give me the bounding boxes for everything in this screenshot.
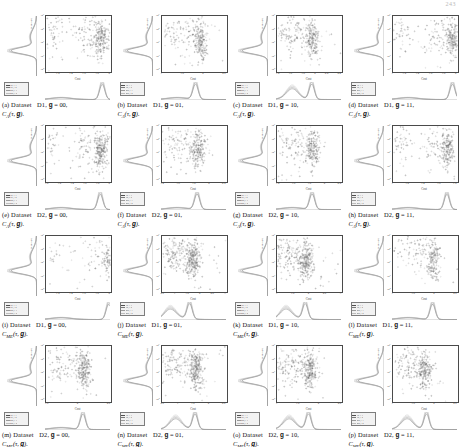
x-axis-label: Cost <box>45 407 110 411</box>
scatter-plot-axes[interactable] <box>276 15 343 73</box>
x-tick-label: 2 <box>202 72 203 75</box>
legend-color-swatch <box>237 87 241 88</box>
legend-entry-label: MR_i=2 <box>357 312 364 315</box>
x-tick-label: 1 <box>45 292 46 295</box>
scatter-plot-axes[interactable] <box>392 15 459 73</box>
x-axis-label: Cost <box>276 297 341 301</box>
x-tick-label: 1.5 <box>191 402 194 405</box>
panel-caption: (k)Dataset D1, g = 10,CME(τ, g). <box>233 320 345 341</box>
plot-legend[interactable]: TR_i=1TR_i=2MR_i=1MR_i=2 <box>4 412 29 426</box>
marginal-density-x <box>276 82 341 100</box>
panel-g-value: 01 <box>174 321 180 328</box>
panel-dataset: Dataset D1, <box>127 101 163 108</box>
scatter-plot-axes[interactable] <box>392 345 459 403</box>
panel-letter: (o) <box>233 431 240 438</box>
legend-color-swatch <box>237 93 241 94</box>
scatter-plot-axes[interactable] <box>276 345 343 403</box>
y-tick-label: 10² <box>387 68 391 71</box>
marginal-density-x <box>45 412 110 430</box>
scatter-plot-axes[interactable] <box>276 235 343 293</box>
panel-g-symbol: g <box>396 211 400 218</box>
plot-legend[interactable]: TR_i=1TR_i=2MR_i=1MR_i=2 <box>351 302 376 316</box>
legend-color-swatch <box>121 305 125 306</box>
plot-legend[interactable]: TR_i=1TR_i=2MR_i=1MR_i=2 <box>4 302 29 316</box>
plot-legend[interactable]: TR_i=1TR_i=2MR_i=1MR_i=2 <box>120 82 145 96</box>
marginal-density-x <box>161 302 226 320</box>
legend-color-swatch <box>352 310 356 311</box>
plot-legend[interactable]: TR_i=1TR_i=2MR_i=1MR_i=2 <box>235 192 260 206</box>
figure-panel-a: 10⁶10⁵10⁴10³10²Suite size11.21.41.61.82C… <box>0 12 116 122</box>
scatter-plot-axes[interactable] <box>45 125 112 183</box>
legend-color-swatch <box>237 417 241 418</box>
marginal-density-x <box>276 192 341 210</box>
legend-color-swatch <box>352 90 356 91</box>
scatter-plot-axes[interactable] <box>161 125 228 183</box>
y-tick-label: 10⁵ <box>156 138 160 141</box>
scatter-plot-axes[interactable] <box>45 235 112 293</box>
scatter-plot-axes[interactable] <box>161 235 228 293</box>
figure-panel-k: 10⁶10⁵10⁴10³10²Suite size11.522.53CostTR… <box>231 232 347 342</box>
scatter-plot-axes[interactable] <box>392 235 459 293</box>
panel-g-value: 01 <box>175 431 181 438</box>
plot-legend[interactable]: TR_i=1TR_i=2MR_i=1MR_i=2 <box>120 192 145 206</box>
plot-legend[interactable]: TR_i=1TR_i=2MR_i=1MR_i=2 <box>351 192 376 206</box>
x-axis-label: Cost <box>276 187 341 191</box>
plot-legend[interactable]: TR_i=1TR_i=2MR_i=1MR_i=2 <box>120 302 145 316</box>
scatter-plot-axes[interactable] <box>45 345 112 403</box>
panel-g-value: 00 <box>58 321 64 328</box>
scatter-plot-axes[interactable] <box>45 15 112 73</box>
panel-g-symbol: g <box>165 101 169 108</box>
plot-legend[interactable]: TR_i=1TR_i=2MR_i=1MR_i=2 <box>120 412 145 426</box>
y-axis-label: Suite size <box>377 221 380 249</box>
legend-entry: MR_i=2 <box>121 312 143 315</box>
x-tick-label: 2 <box>455 72 456 75</box>
x-axis-label: Cost <box>392 297 457 301</box>
y-tick-label: 10⁵ <box>271 28 275 31</box>
plot-legend[interactable]: TR_i=1TR_i=2MR_i=1MR_i=2 <box>235 82 260 96</box>
plot-legend[interactable]: TR_i=1TR_i=2MR_i=1MR_i=2 <box>235 412 260 426</box>
y-tick-label: 10³ <box>156 275 160 278</box>
y-tick-label: 10⁴ <box>387 41 391 44</box>
y-tick-label: 10³ <box>272 275 276 278</box>
x-axis-label: Cost <box>161 77 226 81</box>
legend-entry: MR_i=2 <box>121 422 143 425</box>
plot-legend[interactable]: TR_i=1TR_i=2MR_i=1MR_i=2 <box>4 192 29 206</box>
legend-color-swatch <box>6 90 10 91</box>
plot-legend[interactable]: TR_i=1TR_i=2MR_i=1MR_i=2 <box>351 82 376 96</box>
panel-g-symbol: g <box>163 211 167 218</box>
plot-legend[interactable]: TR_i=1TR_i=2MR_i=1MR_i=2 <box>351 412 376 426</box>
plot-legend[interactable]: TR_i=1TR_i=2MR_i=1MR_i=2 <box>235 302 260 316</box>
legend-entry: MR_i=2 <box>6 202 28 205</box>
y-axis-ticks: 10⁶10⁵10⁴10³10² <box>149 344 160 401</box>
x-axis-ticks: 1.41.61.822.2 <box>276 182 341 185</box>
scatter-plot-axes[interactable] <box>161 345 228 403</box>
y-tick-label: 10² <box>272 178 276 181</box>
scatter-plot-axes[interactable] <box>392 125 459 183</box>
y-tick-label: 10⁴ <box>40 151 44 154</box>
x-tick-label: 2 <box>208 402 209 405</box>
x-tick-label: 0.5 <box>161 292 164 295</box>
panel-cost-function: CME(τ, g). <box>233 330 259 337</box>
legend-color-swatch <box>6 417 10 418</box>
scatter-plot-axes[interactable] <box>276 125 343 183</box>
y-tick-label: 10² <box>272 68 276 71</box>
legend-color-swatch <box>237 305 241 306</box>
joint-plot: 10⁶10⁵10⁴10³10²Suite size1.41.61.822.22.… <box>231 12 347 96</box>
x-axis-label: Cost <box>161 297 226 301</box>
scatter-plot-axes[interactable] <box>161 15 228 73</box>
y-tick-label: 10⁶ <box>156 124 160 127</box>
legend-entry-label: MR_i=2 <box>10 312 17 315</box>
y-axis-ticks: 10⁶10⁵10⁴10³10² <box>149 234 160 291</box>
x-tick-label: 2.5 <box>222 402 225 405</box>
y-tick-label: 10⁴ <box>156 41 160 44</box>
figure-panel-d: 10⁶10⁵10⁴10³10²Suite size11.21.41.61.82C… <box>347 12 462 122</box>
plot-legend[interactable]: TR_i=1TR_i=2MR_i=1MR_i=2 <box>4 82 29 96</box>
panel-g-value: 10 <box>291 431 297 438</box>
figure-panel-b: 10⁶10⁵10⁴10³10²Suite size11.522.5CostTR_… <box>116 12 232 122</box>
x-tick-label: 2.5 <box>107 402 110 405</box>
joint-plot: 10⁶10⁵10⁴10³10²Suite size11.522.5CostTR_… <box>116 12 232 96</box>
panel-g-symbol: g <box>396 101 400 108</box>
page-number: 243 <box>446 1 457 7</box>
y-tick-label: 10³ <box>387 165 391 168</box>
legend-color-swatch <box>6 305 10 306</box>
